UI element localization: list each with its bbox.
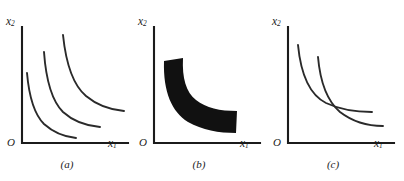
y-axis-label-b: x2 (138, 16, 147, 28)
caption-b: (b) (132, 158, 266, 170)
indifference-curve-figure: x2 x1 O (a) x2 x1 O (b) x2 x1 O (c) (0, 0, 404, 181)
x-axis-label-c: x1 (374, 138, 383, 150)
curve-a-3 (63, 35, 124, 111)
curve-c-steep (318, 57, 383, 126)
origin-label-b: O (139, 137, 147, 148)
caption-a: (a) (0, 158, 134, 170)
panel-b: x2 x1 O (b) (132, 0, 266, 181)
panel-b-plot (132, 0, 266, 160)
caption-c: (c) (266, 158, 400, 170)
panel-c-plot (266, 0, 400, 160)
panel-a-plot (0, 0, 134, 160)
y-axis-label-c: x2 (272, 16, 281, 28)
y-axis-label-a: x2 (6, 16, 15, 28)
curve-a-1 (27, 73, 76, 138)
origin-label-c: O (273, 137, 281, 148)
x-axis-label-b: x1 (240, 138, 249, 150)
shaded-band-b (164, 58, 237, 133)
panel-c: x2 x1 O (c) (266, 0, 400, 181)
origin-label-a: O (7, 137, 15, 148)
x-axis-label-a: x1 (108, 138, 117, 150)
curve-c-flat (298, 45, 372, 112)
panel-a: x2 x1 O (a) (0, 0, 134, 181)
axes-a (22, 27, 128, 143)
curve-a-2 (44, 52, 100, 127)
